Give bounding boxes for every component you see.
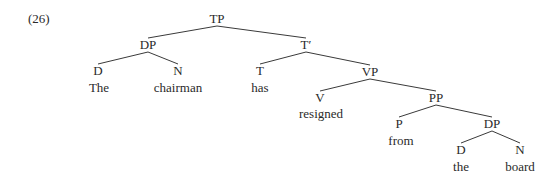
tree-word: The (89, 81, 109, 95)
tree-node-d2: D (456, 143, 465, 157)
tree-word: the (453, 160, 469, 174)
tree-node-n2: N (515, 143, 524, 157)
tree-word: board (505, 160, 535, 174)
tree-node-vp: VP (362, 65, 379, 79)
tree-edge (320, 79, 370, 91)
tree-edge (148, 26, 217, 38)
tree-word: from (388, 134, 413, 148)
tree-edge (399, 105, 436, 117)
tree-word: chairman (154, 81, 202, 95)
tree-node-v: V (315, 91, 324, 105)
tree-edge (461, 131, 492, 143)
tree-node-tbar: T′ (301, 38, 312, 52)
tree-node-dp1: DP (140, 38, 157, 52)
tree-node-t: T (256, 64, 264, 78)
tree-node-pp: PP (429, 91, 443, 105)
tree-node-tp: TP (209, 12, 224, 26)
tree-node-dp2: DP (484, 117, 501, 131)
tree-node-p: P (395, 117, 402, 131)
tree-node-d1: D (93, 64, 102, 78)
tree-node-n1: N (173, 64, 182, 78)
tree-edge (260, 52, 306, 64)
tree-word: has (251, 81, 268, 95)
tree-edges (0, 0, 555, 184)
tree-word: resigned (299, 107, 343, 121)
tree-edge (370, 79, 436, 91)
tree-edge (98, 52, 148, 64)
tree-edge (306, 52, 370, 65)
tree-edge (217, 26, 306, 38)
